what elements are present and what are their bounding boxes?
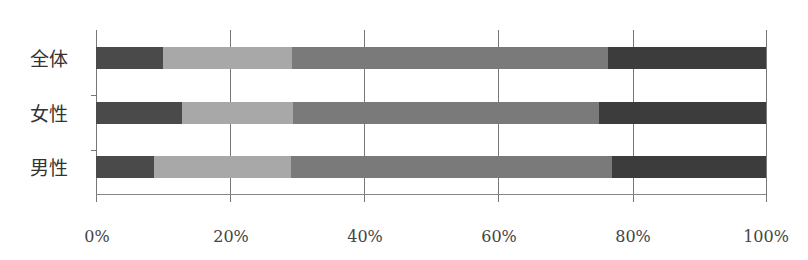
x-tick-label: 40% xyxy=(347,227,383,246)
y-tick xyxy=(91,95,96,96)
bar-segment-3 xyxy=(293,102,599,124)
bar-segment-3 xyxy=(291,156,612,178)
bar-row-total xyxy=(96,47,766,69)
bar-segment-2 xyxy=(182,102,293,124)
x-tick-label: 0% xyxy=(84,227,109,246)
gridline-100 xyxy=(766,30,767,202)
x-tick-label: 80% xyxy=(615,227,651,246)
bar-segment-4 xyxy=(612,156,766,178)
bar-segment-3 xyxy=(292,47,608,69)
category-label-total: 全体 xyxy=(8,44,68,71)
bar-row-male xyxy=(96,156,766,178)
bar-segment-2 xyxy=(154,156,291,178)
bar-segment-1 xyxy=(96,47,163,69)
bar-segment-2 xyxy=(163,47,292,69)
x-tick-label: 20% xyxy=(213,227,249,246)
y-tick xyxy=(91,150,96,151)
bar-segment-4 xyxy=(599,102,766,124)
x-tick-label: 60% xyxy=(481,227,517,246)
bar-segment-1 xyxy=(96,102,182,124)
chart-plot-area xyxy=(96,30,766,195)
category-label-female: 女性 xyxy=(8,99,68,126)
bar-segment-4 xyxy=(608,47,766,69)
category-label-male: 男性 xyxy=(8,153,68,180)
bar-row-female xyxy=(96,102,766,124)
x-axis xyxy=(96,194,766,195)
bar-segment-1 xyxy=(96,156,154,178)
x-tick-label: 100% xyxy=(743,227,789,246)
tick-0 xyxy=(96,195,97,202)
